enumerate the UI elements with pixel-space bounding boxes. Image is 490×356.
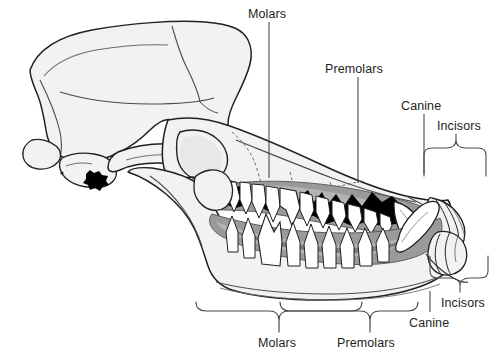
label-molars-bottom: Molars bbox=[258, 337, 296, 350]
skull-illustration bbox=[0, 0, 490, 356]
brace-molars-bottom bbox=[196, 302, 362, 332]
lower-tooth-carnassial bbox=[258, 214, 282, 266]
skull-diagram-figure: Molars Premolars Canine Incisors Molars … bbox=[0, 0, 490, 356]
brace-incisors-top bbox=[424, 134, 486, 176]
upper-tooth-carnassial bbox=[280, 188, 300, 226]
label-premolars-bottom: Premolars bbox=[337, 337, 395, 350]
label-canine-top: Canine bbox=[401, 100, 441, 113]
label-premolars-top: Premolars bbox=[325, 63, 383, 76]
label-incisors-bottom: Incisors bbox=[441, 297, 485, 310]
temporal-foramen-dot bbox=[60, 171, 63, 174]
label-incisors-top: Incisors bbox=[437, 120, 481, 133]
lower-tooth bbox=[304, 224, 318, 268]
brace-premolars-bottom bbox=[280, 302, 418, 332]
label-molars-top: Molars bbox=[248, 8, 286, 21]
lower-tooth bbox=[286, 222, 300, 266]
label-canine-bottom: Canine bbox=[409, 317, 449, 330]
upper-tooth bbox=[266, 186, 280, 222]
